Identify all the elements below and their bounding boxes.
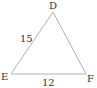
vertex-label-d: D — [49, 0, 57, 11]
vertex-label-e: E — [1, 71, 8, 82]
side-label-ef: 12 — [42, 77, 55, 88]
vertex-label-f: F — [87, 73, 94, 84]
side-label-de: 15 — [20, 33, 33, 44]
triangle-diagram: D E F 15 12 — [0, 0, 97, 88]
